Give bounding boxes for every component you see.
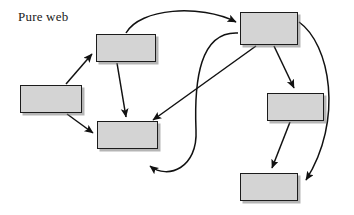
diagram-title: Pure web (18, 9, 68, 25)
diagram-canvas: Pure web (0, 0, 354, 215)
edge-n1-n2 (66, 54, 92, 84)
edge-n1-n3 (67, 114, 93, 133)
edge-n2-n3 (117, 63, 126, 117)
node-n2[interactable] (96, 34, 156, 62)
edge-n4-n3-loop (150, 33, 238, 172)
node-n1[interactable] (20, 85, 82, 113)
edge-n4-n5 (274, 46, 294, 88)
node-n6[interactable] (240, 173, 298, 201)
node-n3[interactable] (97, 121, 158, 149)
node-n5[interactable] (267, 93, 324, 121)
edge-n2-n4 (126, 11, 236, 33)
edge-n4-n3 (153, 46, 256, 120)
node-n4[interactable] (240, 12, 298, 45)
edge-n5-n6 (272, 122, 290, 168)
